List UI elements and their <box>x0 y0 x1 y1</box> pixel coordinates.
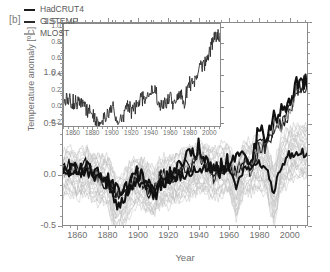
inset-plot-area <box>63 23 221 127</box>
inset-y-tick-label: -0.2 <box>41 118 61 125</box>
y-tick-label: -0.5 <box>22 220 56 230</box>
inset-chart-svg <box>64 24 220 126</box>
x-tick-label: 1980 <box>242 230 276 240</box>
legend-item: MLOST <box>24 28 84 39</box>
inset-y-tick-label: 0.4 <box>41 70 61 77</box>
x-tick-label: 1900 <box>121 230 155 240</box>
legend-item: GISTEMP <box>24 16 84 27</box>
inset-x-tick-label: 2000 <box>196 129 222 136</box>
inset-y-tick-label: 0.0 <box>41 102 61 109</box>
legend-swatch-gistemp <box>24 21 35 23</box>
inset-y-tick-label: 0.2 <box>41 86 61 93</box>
legend-item: HadCRUT4 <box>24 4 84 15</box>
x-axis-label: Year <box>62 252 308 263</box>
x-tick-label: 1880 <box>91 230 125 240</box>
legend-swatch-mlost <box>24 33 35 35</box>
legend-label: GISTEMP <box>40 16 78 27</box>
legend-swatch-hadcrut4 <box>24 9 35 11</box>
x-tick-label: 1960 <box>212 230 246 240</box>
inset-y-tick-label: 0.6 <box>41 54 61 61</box>
x-tick-label: 1920 <box>151 230 185 240</box>
x-tick-label: 1940 <box>182 230 216 240</box>
panel-label: [b] <box>9 14 21 25</box>
x-tick-label: 1860 <box>60 230 94 240</box>
x-tick-label: 2000 <box>273 230 307 240</box>
figure-panel-b: [b] -0.50.00.51.01.518601880190019201940… <box>0 0 330 272</box>
y-tick-label: 0.0 <box>22 169 56 179</box>
legend-label: MLOST <box>40 28 69 39</box>
legend-label: HadCRUT4 <box>40 4 84 15</box>
legend: HadCRUT4GISTEMPMLOST <box>24 4 84 40</box>
